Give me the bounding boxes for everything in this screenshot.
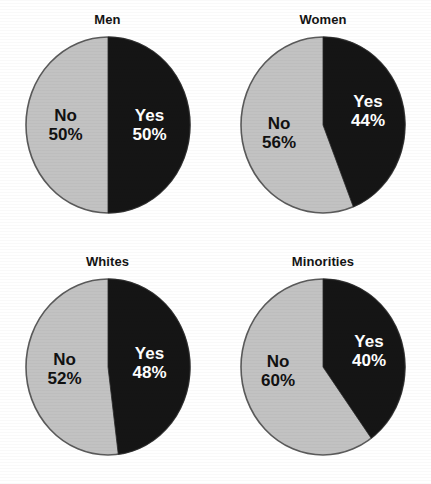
pie-svg-men	[24, 34, 192, 216]
pie-panel-minorities: Minorities No 60% Yes 40%	[215, 242, 431, 484]
pie-svg-women	[239, 34, 407, 216]
pie-panel-men: Men No 50% Yes 50%	[0, 0, 215, 242]
pie-svg-minorities	[239, 276, 407, 458]
pie-panel-whites: Whites No 52% Yes 48%	[0, 242, 215, 484]
pie-title-men: Men	[0, 12, 215, 28]
pie-svg-whites	[24, 276, 192, 458]
pie-figure-men: No 50% Yes 50%	[24, 34, 192, 216]
pie-chart-grid: Men No 50% Yes 50% Women	[0, 0, 431, 484]
pie-panel-women: Women No 56% Yes 44%	[215, 0, 431, 242]
pie-title-women: Women	[215, 12, 431, 28]
pie-slice-yes-whites	[108, 279, 190, 454]
pie-title-whites: Whites	[0, 254, 215, 270]
pie-figure-women: No 56% Yes 44%	[239, 34, 407, 216]
pie-figure-minorities: No 60% Yes 40%	[239, 276, 407, 458]
pie-figure-whites: No 52% Yes 48%	[24, 276, 192, 458]
pie-slice-yes-men	[108, 37, 190, 213]
pie-title-minorities: Minorities	[215, 254, 431, 270]
